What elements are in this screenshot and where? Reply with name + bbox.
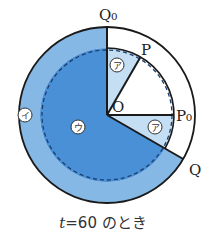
label-q0: Q₀	[99, 6, 117, 24]
rotation-diagram: Q₀ P O P₀ Q ア ア イ ウ	[0, 0, 206, 243]
label-p0: P₀	[176, 107, 192, 125]
label-q: Q	[189, 161, 201, 179]
svg-text:ア: ア	[113, 61, 122, 71]
caption: t=60 のとき	[0, 211, 206, 232]
label-o: O	[112, 98, 124, 116]
marker-u: ウ	[71, 120, 85, 134]
label-p: P	[141, 41, 151, 59]
svg-text:イ: イ	[21, 111, 30, 121]
marker-a-top: ア	[110, 58, 124, 72]
marker-i: イ	[18, 108, 32, 122]
marker-a-bottom: ア	[148, 120, 162, 134]
svg-text:ウ: ウ	[74, 123, 83, 133]
svg-text:ア: ア	[151, 123, 160, 133]
caption-text: =60 のとき	[65, 214, 146, 232]
